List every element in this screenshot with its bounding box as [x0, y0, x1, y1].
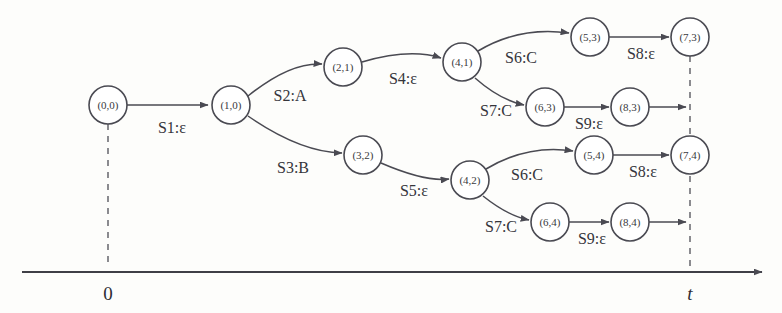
edge-label-e1: S1:ε — [158, 119, 186, 136]
node-n10[interactable]: (1,0) — [212, 86, 250, 124]
node-n54[interactable]: (5,4) — [575, 136, 613, 174]
node-n42[interactable]: (4,2) — [451, 161, 489, 199]
edge-label-e4: S4:ε — [389, 70, 417, 87]
node-label-n63: (6,3) — [534, 101, 555, 114]
node-n83[interactable]: (8,3) — [611, 88, 649, 126]
edge-label-e7: S7:C — [480, 102, 512, 119]
edge-e4 — [362, 54, 441, 62]
edge-label-e12: S7:C — [485, 218, 517, 235]
node-n64[interactable]: (6,4) — [531, 203, 569, 241]
edge-e12 — [483, 196, 529, 220]
edge-label-e6: S6:C — [505, 49, 537, 66]
node-n41[interactable]: (4,1) — [443, 43, 481, 81]
axis-tick-zero: 0 — [103, 283, 113, 304]
node-n84[interactable]: (8,4) — [611, 203, 649, 241]
edge-label-e11: S6:C — [511, 166, 543, 183]
diagram-canvas: S1:εS2:AS3:BS4:εS5:εS6:CS7:CS8:εS9:εS6:C… — [0, 0, 782, 313]
event-tree-diagram: S1:εS2:AS3:BS4:εS5:εS6:CS7:CS8:εS9:εS6:C… — [0, 0, 782, 313]
node-n74[interactable]: (7,4) — [671, 136, 709, 174]
node-n73[interactable]: (7,3) — [671, 18, 709, 56]
node-label-n84: (8,4) — [619, 216, 640, 229]
edge-label-e14: S9:ε — [578, 230, 606, 247]
node-label-n54: (5,4) — [583, 149, 604, 162]
node-label-n64: (6,4) — [539, 216, 560, 229]
node-n00[interactable]: (0,0) — [89, 86, 127, 124]
edge-label-e2: S2:A — [274, 87, 307, 104]
node-label-n53: (5,3) — [579, 31, 600, 44]
node-label-n74: (7,4) — [679, 149, 700, 162]
node-label-n83: (8,3) — [619, 101, 640, 114]
edge-label-e13: S8:ε — [629, 163, 657, 180]
node-label-n41: (4,1) — [451, 56, 472, 69]
edge-label-e8: S8:ε — [627, 45, 655, 62]
node-n32[interactable]: (3,2) — [344, 136, 382, 174]
node-label-n21: (2,1) — [332, 61, 353, 74]
node-label-n10: (1,0) — [220, 99, 241, 112]
node-n63[interactable]: (6,3) — [526, 88, 564, 126]
edge-label-e5: S5:ε — [400, 182, 428, 199]
edge-label-e9: S9:ε — [575, 115, 603, 132]
axis-tick-t: t — [687, 283, 693, 304]
node-n21[interactable]: (2,1) — [324, 48, 362, 86]
node-label-n32: (3,2) — [352, 149, 373, 162]
time-axis-layer: 0t — [22, 272, 762, 304]
edge-e5 — [381, 163, 449, 179]
edge-label-e3: S3:B — [277, 159, 309, 176]
node-label-n00: (0,0) — [97, 99, 118, 112]
node-label-n42: (4,2) — [459, 174, 480, 187]
node-n53[interactable]: (5,3) — [571, 18, 609, 56]
node-label-n73: (7,3) — [679, 31, 700, 44]
edge-e3 — [248, 116, 342, 153]
